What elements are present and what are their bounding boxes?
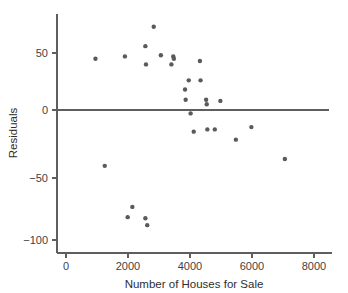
data-point — [103, 164, 107, 168]
data-point — [198, 78, 202, 82]
y-axis-tick-labels: 50 0 −50 −100 — [23, 47, 48, 246]
y-tick-label-neg100: −100 — [23, 234, 48, 246]
data-point — [144, 62, 148, 66]
data-point — [130, 205, 134, 209]
x-tick-label-8000: 8000 — [302, 260, 326, 272]
data-point — [172, 57, 176, 61]
x-tick-label-6000: 6000 — [240, 260, 264, 272]
x-tick-label-0: 0 — [63, 260, 69, 272]
data-point — [198, 59, 202, 63]
data-point — [249, 125, 253, 129]
data-point — [205, 102, 209, 106]
data-point — [204, 98, 208, 102]
data-point — [218, 99, 222, 103]
data-point — [123, 54, 127, 58]
y-axis-ticks — [52, 53, 57, 240]
data-point — [187, 78, 191, 82]
data-point — [192, 129, 196, 133]
data-point — [213, 127, 217, 131]
data-point — [188, 111, 192, 115]
data-point — [145, 223, 149, 227]
data-point — [169, 62, 173, 66]
y-tick-label-0: 0 — [42, 104, 48, 116]
data-point — [152, 25, 156, 29]
data-point — [205, 127, 209, 131]
data-point — [143, 44, 147, 48]
data-points-layer — [93, 25, 287, 228]
data-point — [183, 87, 187, 91]
data-point — [125, 215, 129, 219]
data-point — [93, 57, 97, 61]
x-axis-ticks — [66, 253, 314, 258]
residual-plot-figure: 50 0 −50 −100 0 2000 4000 6000 8000 Numb… — [0, 0, 348, 293]
data-point — [183, 98, 187, 102]
scatter-plot-canvas: 50 0 −50 −100 0 2000 4000 6000 8000 Numb… — [0, 0, 348, 293]
x-tick-label-4000: 4000 — [178, 260, 202, 272]
x-axis-title: Number of Houses for Sale — [125, 278, 264, 290]
y-tick-label-neg50: −50 — [29, 172, 48, 184]
x-tick-label-2000: 2000 — [116, 260, 140, 272]
y-tick-label-50: 50 — [36, 47, 48, 59]
data-point — [143, 216, 147, 220]
data-point — [159, 53, 163, 57]
y-axis-title: Residuals — [7, 108, 19, 159]
data-point — [283, 157, 287, 161]
x-axis-tick-labels: 0 2000 4000 6000 8000 — [63, 260, 326, 272]
data-point — [234, 137, 238, 141]
